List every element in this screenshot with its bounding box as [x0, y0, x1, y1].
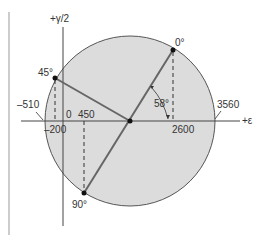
label-origin: 0: [66, 109, 72, 120]
label-0deg: 0°: [175, 37, 185, 48]
vertical-axis-label: +γ/2: [50, 13, 70, 24]
label-left-intercept: –510: [17, 99, 40, 110]
leader-left: [36, 112, 43, 120]
leader-right: [215, 111, 221, 119]
center-point: [128, 119, 133, 124]
margin-rule: [8, 12, 10, 235]
label-45deg: 45°: [38, 67, 53, 78]
label-minus200: –200: [44, 124, 67, 135]
label-90deg: 90°: [72, 199, 87, 210]
label-rotation-angle: 58°: [154, 98, 169, 109]
label-right-intercept: 3560: [217, 99, 240, 110]
point-45deg: [53, 76, 58, 81]
label-450: 450: [78, 109, 95, 120]
point-90deg: [82, 191, 87, 196]
horizontal-axis-label: +ε: [242, 115, 253, 126]
mohr-circle-diagram: +γ/2 +ε 0° 45° 90° –510 3560 0 450 –200 …: [0, 0, 260, 235]
point-0deg: [171, 48, 176, 53]
label-2600: 2600: [172, 124, 195, 135]
